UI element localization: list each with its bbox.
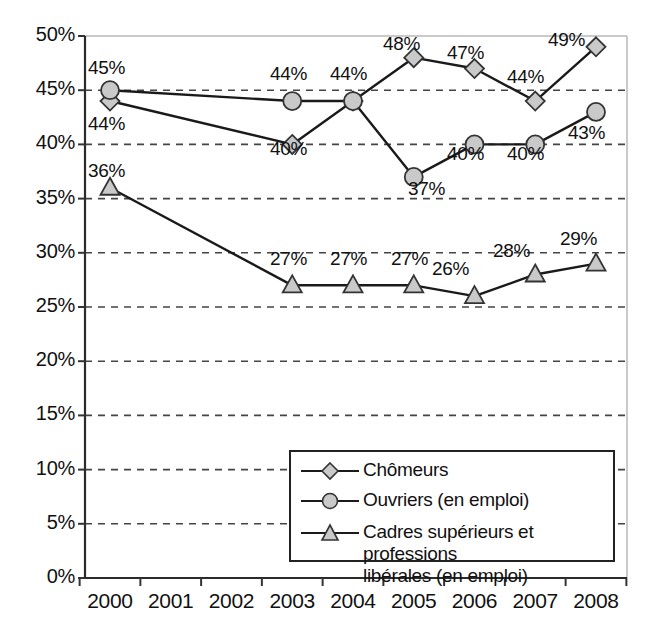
x-axis-tick-label: 2001	[139, 589, 203, 613]
y-axis-tick-label: 30%	[5, 240, 75, 263]
x-axis-tick-label: 2003	[260, 589, 324, 613]
data-point-marker	[101, 81, 119, 99]
data-point-label: 40%	[507, 143, 544, 165]
data-point-marker	[587, 103, 605, 121]
legend-label-cadres-line2: libérales (en emploi)	[363, 565, 613, 587]
y-axis-tick-label: 40%	[5, 131, 75, 154]
data-point-label: 28%	[493, 240, 530, 262]
data-point-marker	[344, 275, 363, 292]
data-point-label: 27%	[270, 248, 307, 270]
x-axis-tick-label: 2004	[321, 589, 385, 613]
data-point-label: 49%	[548, 29, 585, 51]
x-axis-tick-label: 2000	[78, 589, 142, 613]
data-point-label: 43%	[568, 122, 605, 144]
y-axis-tick-label: 50%	[5, 23, 75, 46]
x-axis-tick-label: 2005	[382, 589, 446, 613]
data-point-marker	[283, 92, 301, 110]
legend-item-ouvriers[interactable]: Ouvriers (en emploi)	[299, 489, 529, 512]
data-point-label: 40%	[447, 143, 484, 165]
data-point-label: 37%	[408, 178, 445, 200]
x-axis-tick-label: 2006	[443, 589, 507, 613]
data-point-label: 26%	[432, 258, 469, 280]
data-point-label: 47%	[447, 42, 484, 64]
x-axis-tick-label: 2002	[200, 589, 264, 613]
y-axis-tick-label: 25%	[5, 294, 75, 317]
legend-label-ouvriers: Ouvriers (en emploi)	[363, 489, 529, 511]
legend-item-cadres[interactable]: Cadres supérieurs et professions libéral…	[299, 521, 613, 587]
y-axis-tick-label: 5%	[5, 511, 75, 534]
data-point-label: 27%	[330, 248, 367, 270]
line-chart: 0%5%10%15%20%25%30%35%40%45%50% 20002001…	[0, 0, 649, 639]
legend: Chômeurs Ouvriers (en emploi) Cadres sup…	[289, 450, 615, 562]
legend-item-chomeurs[interactable]: Chômeurs	[299, 459, 448, 482]
data-point-label: 36%	[88, 160, 125, 182]
circle-marker-icon	[299, 490, 361, 512]
x-axis-tick-label: 2007	[503, 589, 567, 613]
data-point-label: 29%	[560, 228, 597, 250]
data-point-marker	[283, 275, 302, 292]
data-point-label: 44%	[507, 66, 544, 88]
legend-label-cadres-line1: Cadres supérieurs et professions	[363, 521, 533, 564]
data-point-marker	[344, 92, 362, 110]
data-point-label: 44%	[270, 63, 307, 85]
y-axis-tick-label: 45%	[5, 77, 75, 100]
y-axis	[78, 36, 85, 578]
y-axis-tick-label: 20%	[5, 348, 75, 371]
data-point-marker	[404, 275, 423, 292]
triangle-marker-icon	[299, 522, 361, 544]
y-axis-tick-label: 0%	[5, 565, 75, 588]
data-point-label: 40%	[270, 138, 307, 160]
y-axis-tick-label: 35%	[5, 186, 75, 209]
data-point-label: 27%	[391, 248, 428, 270]
y-axis-tick-label: 15%	[5, 402, 75, 425]
y-axis-tick-label: 10%	[5, 457, 75, 480]
data-point-label: 45%	[88, 57, 125, 79]
data-point-label: 44%	[330, 63, 367, 85]
data-point-marker	[587, 254, 606, 271]
data-point-label: 48%	[383, 33, 420, 55]
x-axis-tick-label: 2008	[564, 589, 628, 613]
legend-label-cadres: Cadres supérieurs et professions libéral…	[363, 521, 613, 587]
diamond-marker-icon	[299, 460, 361, 482]
legend-label-chomeurs: Chômeurs	[363, 459, 448, 481]
data-point-label: 44%	[88, 113, 125, 135]
